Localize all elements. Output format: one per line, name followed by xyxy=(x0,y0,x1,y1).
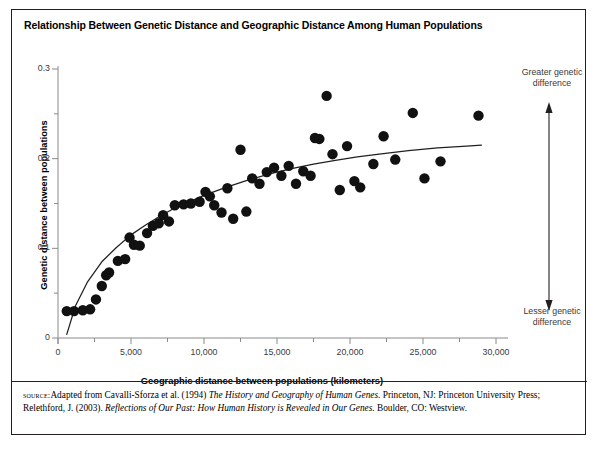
annotation-greater-genetic-difference: Greater genetic difference xyxy=(504,67,597,89)
source-text-1: Adapted from Cavalli-Sforza et al. (1994… xyxy=(50,390,208,400)
x-tick-label: 0 xyxy=(28,347,88,357)
y-tick-label: 0.3 xyxy=(10,63,50,73)
scatter-point xyxy=(368,159,378,169)
scatter-point xyxy=(291,179,301,189)
scatter-point xyxy=(314,134,324,144)
scatter-point xyxy=(408,108,418,118)
scatter-point xyxy=(269,162,279,172)
arrow-head-up-icon xyxy=(545,102,552,113)
scatter-point xyxy=(355,182,365,192)
x-tick-label: 25,000 xyxy=(393,347,453,357)
source-note: source:Adapted from Cavalli-Sforza et al… xyxy=(23,389,577,415)
y-tick-label: 0.1 xyxy=(10,242,50,252)
scatter-point xyxy=(390,154,400,164)
source-divider xyxy=(12,381,587,382)
x-tick-label: 5,000 xyxy=(101,347,161,357)
source-text-3: . Boulder, CO: Westview. xyxy=(372,403,467,413)
y-tick-label: 0.2 xyxy=(10,153,50,163)
scatter-point xyxy=(135,240,145,250)
scatter-point xyxy=(305,171,315,181)
scatter-point xyxy=(97,281,107,291)
scatter-point xyxy=(216,207,226,217)
chart-plot-area: Geographic distance between populations … xyxy=(12,10,587,436)
source-italic-title-1: The History and Geography of Human Genes xyxy=(209,390,378,400)
y-axis-title: Genetic distance between populations xyxy=(39,85,49,325)
scatter-point xyxy=(283,161,293,171)
scatter-point xyxy=(120,254,130,264)
figure-container: Relationship Between Genetic Distance an… xyxy=(11,9,586,435)
x-tick-label: 10,000 xyxy=(174,347,234,357)
scatter-point xyxy=(241,206,251,216)
scatter-point xyxy=(104,267,114,277)
x-tick-label: 30,000 xyxy=(466,347,526,357)
scatter-point xyxy=(321,91,331,101)
scatter-point-group xyxy=(62,91,484,317)
scatter-point xyxy=(85,304,95,314)
source-label: source: xyxy=(23,391,50,400)
scatter-point xyxy=(205,191,215,201)
y-tick-label: 0 xyxy=(10,332,50,342)
scatter-chart-svg xyxy=(12,10,587,436)
scatter-point xyxy=(276,171,286,181)
scatter-point xyxy=(194,197,204,207)
scatter-point xyxy=(378,131,388,141)
x-tick-label: 20,000 xyxy=(320,347,380,357)
scatter-point xyxy=(327,149,337,159)
scatter-point xyxy=(419,173,429,183)
scatter-point xyxy=(435,156,445,166)
scatter-point xyxy=(254,179,264,189)
annotation-lesser-genetic-difference: Lesser genetic difference xyxy=(504,306,597,328)
scatter-point xyxy=(91,294,101,304)
scatter-point xyxy=(342,141,352,151)
scatter-point xyxy=(228,214,238,224)
scatter-point xyxy=(222,183,232,193)
scatter-point xyxy=(186,198,196,208)
source-italic-title-2: Reflections of Our Past: How Human Histo… xyxy=(105,403,372,413)
x-tick-label: 15,000 xyxy=(247,347,307,357)
scatter-point xyxy=(335,185,345,195)
scatter-point xyxy=(235,145,245,155)
scatter-point xyxy=(473,110,483,120)
scatter-point xyxy=(164,216,174,226)
